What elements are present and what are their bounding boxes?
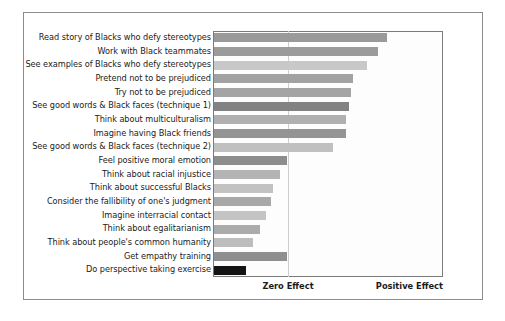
bar [214, 238, 253, 247]
bar-row: Imagine having Black friends [0, 127, 505, 141]
bar [214, 61, 367, 70]
bar-row: Think about racial injustice [0, 168, 505, 182]
bar-category-label: Imagine having Black friends [93, 127, 211, 141]
bar [214, 47, 378, 56]
bar-row: Think about multiculturalism [0, 113, 505, 127]
bar-category-label: Think about egalitarianism [103, 222, 211, 236]
bar [214, 170, 280, 179]
bar-category-label: Try not to be prejudiced [115, 86, 211, 100]
bar-row: Think about successful Blacks [0, 181, 505, 195]
axis-tick-label-zero-effect: Zero Effect [262, 281, 313, 291]
bar [214, 33, 387, 42]
bar [214, 184, 273, 193]
bar-category-label: Read story of Blacks who defy stereotype… [39, 31, 211, 45]
bar-row: Try not to be prejudiced [0, 86, 505, 100]
bar-category-label: See good words & Black faces (technique … [32, 99, 211, 113]
bar-category-label: See examples of Blacks who defy stereoty… [25, 58, 211, 72]
chart-figure: Read story of Blacks who defy stereotype… [0, 0, 505, 321]
bar-row: See examples of Blacks who defy stereoty… [0, 58, 505, 72]
axis-tick-label-positive-effect: Positive Effect [376, 281, 443, 291]
bar-row: Consider the fallibility of one's judgme… [0, 195, 505, 209]
bar [214, 225, 260, 234]
bar [214, 143, 333, 152]
bar-category-label: Work with Black teammates [97, 45, 211, 59]
bar-row: Get empathy training [0, 250, 505, 264]
bar-row: Do perspective taking exercise [0, 263, 505, 277]
bar-category-label: Pretend not to be prejudiced [95, 72, 211, 86]
bar [214, 156, 287, 165]
bar [214, 211, 266, 220]
bar-category-label: Get empathy training [124, 250, 211, 264]
bar [214, 88, 351, 97]
bar-category-label: Think about successful Blacks [90, 181, 211, 195]
bar [214, 74, 353, 83]
bar-row: Work with Black teammates [0, 45, 505, 59]
bar [214, 252, 287, 261]
bar [214, 266, 246, 275]
bar-category-label: Think about racial injustice [102, 168, 211, 182]
bar-rows-container: Read story of Blacks who defy stereotype… [0, 31, 505, 277]
bar [214, 115, 346, 124]
bar-row: Pretend not to be prejudiced [0, 72, 505, 86]
bar-row: Read story of Blacks who defy stereotype… [0, 31, 505, 45]
bar-row: Imagine interracial contact [0, 209, 505, 223]
bar-row: See good words & Black faces (technique … [0, 140, 505, 154]
bar-category-label: Think about multiculturalism [95, 113, 211, 127]
bar-category-label: See good words & Black faces (technique … [32, 140, 211, 154]
bar [214, 102, 349, 111]
bar-category-label: Think about people's common humanity [48, 236, 211, 250]
bar-category-label: Consider the fallibility of one's judgme… [47, 195, 211, 209]
bar [214, 197, 271, 206]
bar-row: See good words & Black faces (technique … [0, 99, 505, 113]
bar-category-label: Feel positive moral emotion [98, 154, 211, 168]
bar-category-label: Imagine interracial contact [102, 209, 211, 223]
bar-category-label: Do perspective taking exercise [86, 263, 211, 277]
bar-row: Think about egalitarianism [0, 222, 505, 236]
bar-row: Feel positive moral emotion [0, 154, 505, 168]
bar-row: Think about people's common humanity [0, 236, 505, 250]
bar [214, 129, 346, 138]
